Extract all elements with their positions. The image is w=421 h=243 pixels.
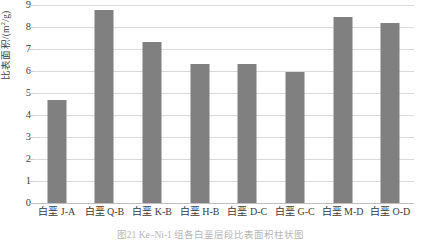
y-tick-label: 8 (3, 22, 31, 32)
plot-area (33, 5, 414, 203)
x-axis-ticks: 白垩 J-A白垩 Q-B白垩 K-B白垩 H-B白垩 D-C白垩 G-C白垩 M… (33, 205, 414, 221)
bar (47, 100, 66, 203)
bar (238, 64, 257, 203)
y-tick-label: 6 (3, 66, 31, 76)
gridline (33, 203, 414, 204)
x-tick-label: 白垩 O-D (366, 205, 414, 219)
bar-slot (176, 5, 224, 203)
bar (285, 72, 304, 203)
y-tick-label: 1 (3, 176, 31, 186)
x-tick-label: 白垩 J-A (33, 205, 81, 219)
bar (143, 42, 162, 203)
bar-slot (33, 5, 81, 203)
y-tick-label: 7 (3, 44, 31, 54)
bar-slot (271, 5, 319, 203)
x-tick-label: 白垩 K-B (128, 205, 176, 219)
y-tick-label: 4 (3, 110, 31, 120)
bar (333, 17, 352, 203)
x-tick-label: 白垩 H-B (176, 205, 224, 219)
y-tick-label: 9 (3, 0, 31, 10)
x-tick-label: 白垩 Q-B (81, 205, 129, 219)
x-tick-label: 白垩 D-C (224, 205, 272, 219)
x-tick-label: 白垩 M-D (319, 205, 367, 219)
y-tick-label: 2 (3, 154, 31, 164)
y-tick-label: 0 (3, 198, 31, 208)
y-tick-label: 3 (3, 132, 31, 142)
x-tick-label: 白垩 G-C (271, 205, 319, 219)
y-tick-label: 5 (3, 88, 31, 98)
bar (95, 10, 114, 203)
bar (381, 23, 400, 203)
bar-slot (319, 5, 367, 203)
bar-series (33, 5, 414, 203)
bar-slot (224, 5, 272, 203)
bar (190, 64, 209, 203)
y-axis-ticks: 0123456789 (0, 5, 31, 203)
figure-caption: 图21 Ke–Ni-1 组各白垩层段比表面积柱状图 (0, 229, 421, 242)
bar-slot (366, 5, 414, 203)
bar-slot (128, 5, 176, 203)
figure-bar-chart: 比表面积/(m2/g) 0123456789 白垩 J-A白垩 Q-B白垩 K-… (0, 0, 421, 243)
bar-slot (81, 5, 129, 203)
